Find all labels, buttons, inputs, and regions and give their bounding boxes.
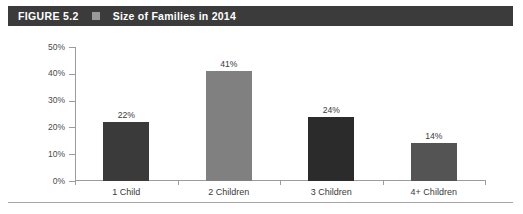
bar-group: 24% — [280, 47, 383, 181]
y-axis-tick-label-text: 30% — [33, 96, 65, 105]
chart-plot-area: 0%10%20%30%40%50% 22%41%24%14% 1 Child2 … — [0, 34, 523, 202]
bar-group: 41% — [178, 47, 281, 181]
bar-value-label: 22% — [118, 110, 135, 120]
bar-value-label: 41% — [220, 59, 237, 69]
bar-group: 22% — [75, 47, 178, 181]
figure-title-label: Size of Families in 2014 — [113, 10, 236, 22]
x-axis-category-label: 3 Children — [280, 186, 383, 198]
bottom-divider — [8, 202, 513, 203]
bar-value-label: 14% — [425, 131, 442, 141]
y-axis-tick-label: 30% — [31, 96, 65, 105]
y-axis-tick-label: 50% — [31, 43, 65, 52]
y-axis-tick-label: 0% — [31, 177, 65, 186]
figure-container: FIGURE 5.2 Size of Families in 2014 0%10… — [0, 0, 523, 214]
figure-header-bar: FIGURE 5.2 Size of Families in 2014 — [8, 6, 513, 26]
y-axis-tick-label-text: 0% — [33, 177, 65, 186]
bar — [411, 143, 457, 181]
y-axis-tick-label-text: 50% — [33, 43, 65, 52]
bar-group: 14% — [383, 47, 486, 181]
y-axis-tick-label: 10% — [31, 150, 65, 159]
bar — [308, 117, 354, 181]
bar-value-label: 24% — [323, 105, 340, 115]
square-marker-icon — [92, 12, 100, 20]
y-axis-tick-label-text: 10% — [33, 150, 65, 159]
y-axis-tick-label-text: 40% — [33, 69, 65, 78]
x-axis-labels: 1 Child2 Children3 Children4+ Children — [75, 186, 485, 202]
bar — [103, 122, 149, 181]
y-axis-tick-label: 20% — [31, 123, 65, 132]
x-axis-category-label: 1 Child — [75, 186, 178, 198]
x-axis-category-label: 2 Children — [178, 186, 281, 198]
y-axis-tick-label: 40% — [31, 69, 65, 78]
x-axis-category-label: 4+ Children — [383, 186, 486, 198]
figure-number-label: FIGURE 5.2 — [18, 10, 79, 22]
bar — [206, 71, 252, 181]
bars-layer: 22%41%24%14% — [75, 47, 485, 181]
x-axis-tick — [485, 180, 486, 185]
y-axis-tick-label-text: 20% — [33, 123, 65, 132]
